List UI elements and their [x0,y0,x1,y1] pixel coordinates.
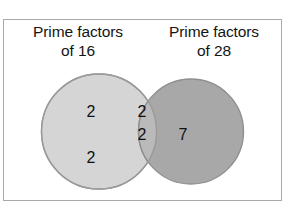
venn-diagram-figure: Prime factors of 16 Prime factors of 28 … [0,0,288,212]
left-set-title-line1: Prime factors [33,23,123,40]
left-region-value: 2 [82,104,100,120]
right-set-title-line2: of 28 [148,42,280,61]
left-region-value: 2 [82,150,100,166]
left-set-title: Prime factors of 16 [12,23,144,60]
right-set-title: Prime factors of 28 [148,23,280,60]
right-set-title-line1: Prime factors [169,23,259,40]
right-region-value: 7 [174,127,192,143]
left-set-title-line2: of 16 [12,42,144,61]
intersection-region-value: 2 [133,104,151,120]
intersection-region-value: 2 [133,127,151,143]
